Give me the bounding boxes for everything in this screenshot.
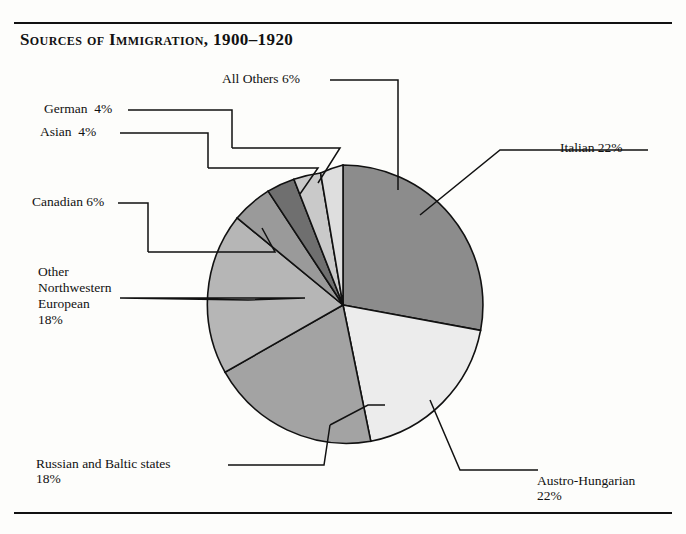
label-other-northwestern-line1: Other (38, 264, 69, 279)
label-other-northwestern-line4: 18% (38, 312, 63, 327)
label-german: German 4% (44, 101, 112, 116)
pie-chart (0, 0, 686, 534)
label-other-northwestern-line3: European (38, 296, 90, 311)
label-russian-baltic-line2: 18% (36, 471, 61, 486)
leader-other-northwestern (120, 298, 305, 300)
label-other-northwestern-line2: Northwestern (38, 280, 111, 295)
label-austro-hungarian-line1: Austro-Hungarian (537, 473, 635, 488)
label-russian-baltic-line1: Russian and Baltic states (36, 456, 171, 471)
label-austro-hungarian-line2: 22% (537, 488, 562, 503)
label-canadian: Canadian 6% (32, 194, 104, 209)
pie-chart-svg (0, 0, 686, 534)
chart-page: Sources of Immigration, 1900–1920 (0, 0, 686, 534)
pie-slices (207, 165, 483, 443)
leader-italian (420, 150, 648, 215)
slice-italian (343, 165, 483, 330)
label-asian: Asian 4% (40, 124, 96, 139)
label-all-others: All Others 6% (222, 71, 300, 86)
label-italian: Italian 22% (560, 140, 623, 155)
leader-austro-hungarian (430, 400, 538, 470)
leader-german (128, 110, 340, 183)
